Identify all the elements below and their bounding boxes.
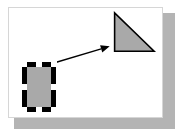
resize-handle-nw[interactable] — [21, 61, 27, 67]
resize-handle-n[interactable] — [36, 61, 42, 67]
screenshot-root: Shape Diagram — [0, 0, 180, 133]
shape-triangle[interactable] — [115, 13, 154, 51]
arrow-head — [100, 45, 110, 52]
resize-handle-se[interactable] — [51, 107, 57, 113]
shape-rectangle-selected[interactable] — [22, 62, 56, 112]
resize-handle-sw[interactable] — [21, 107, 27, 113]
arrow-shaft — [50, 49, 101, 64]
resize-handle-ne[interactable] — [51, 61, 57, 67]
arrow-connector[interactable] — [50, 45, 109, 64]
document-title: Shape Diagram — [0, 0, 1, 1]
resize-handle-w[interactable] — [21, 84, 27, 90]
resize-handle-e[interactable] — [51, 84, 57, 90]
canvas-page[interactable] — [8, 7, 163, 118]
resize-handle-s[interactable] — [36, 107, 42, 113]
